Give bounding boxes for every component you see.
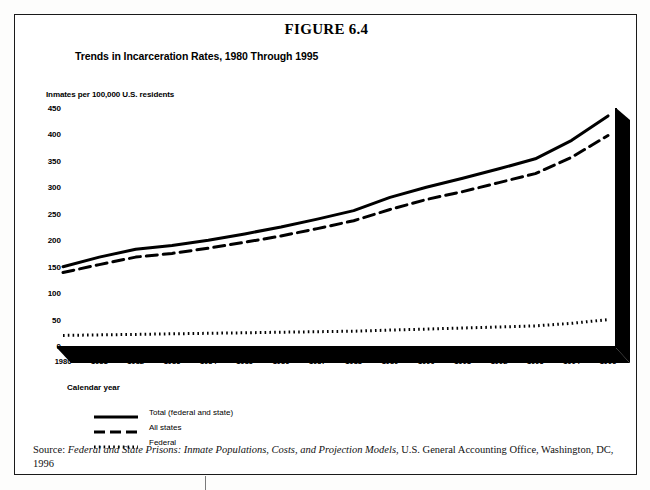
chart-subtitle: Trends in Incarceration Rates, 1980 Thro… <box>75 50 318 62</box>
x-tick-label: 1984 <box>191 357 225 366</box>
y-tick-label: 0 <box>35 342 61 351</box>
legend-label: Total (federal and state) <box>149 408 233 417</box>
x-axis-title: Calendar year <box>67 383 120 392</box>
series-line-dashed <box>63 136 608 273</box>
legend-label: All states <box>149 423 181 432</box>
legend-item: All states <box>93 420 233 435</box>
y-tick-label: 250 <box>35 210 61 219</box>
x-tick-label: 1982 <box>119 357 153 366</box>
scan-artifact-mark <box>205 476 206 490</box>
x-tick-label: 1993 <box>518 357 552 366</box>
series-line-solid <box>63 116 608 267</box>
x-tick-label: 1985 <box>228 357 262 366</box>
source-prefix: Source: <box>33 444 65 455</box>
y-tick-label: 100 <box>35 289 61 298</box>
x-tick-label: 1992 <box>482 357 516 366</box>
x-tick-label: 1994 <box>555 357 589 366</box>
y-tick-label: 200 <box>35 236 61 245</box>
x-tick-label: 1986 <box>264 357 298 366</box>
x-tick-label: 1980 <box>46 357 80 366</box>
x-tick-label: 1990 <box>409 357 443 366</box>
x-tick-label: 1991 <box>446 357 480 366</box>
x-tick-label: 1981 <box>82 357 116 366</box>
line-chart-svg <box>35 85 635 365</box>
legend-key-dashed <box>93 423 139 433</box>
x-tick-label: 1988 <box>337 357 371 366</box>
y-tick-label: 150 <box>35 263 61 272</box>
figure-number-title: FIGURE 6.4 <box>15 21 638 38</box>
y-tick-label: 450 <box>35 104 61 113</box>
legend-item: Total (federal and state) <box>93 405 233 420</box>
y-tick-label: 50 <box>35 316 61 325</box>
plot-area: 050100150200250300350400450 198019811982… <box>35 85 635 365</box>
x-tick-label: 1987 <box>300 357 334 366</box>
scanned-page: FIGURE 6.4 Trends in Incarceration Rates… <box>0 0 650 490</box>
figure-frame: FIGURE 6.4 Trends in Incarceration Rates… <box>14 14 637 475</box>
plot-right-wall <box>616 108 630 363</box>
x-tick-label: 1989 <box>373 357 407 366</box>
y-tick-label: 300 <box>35 183 61 192</box>
source-publication-title: Federal and State Prisons: Inmate Popula… <box>68 444 396 455</box>
series-line-dotted <box>63 320 608 336</box>
legend-key-solid <box>93 408 139 418</box>
y-tick-label: 350 <box>35 157 61 166</box>
source-note: Source: Federal and State Prisons: Inmat… <box>33 443 621 471</box>
y-tick-label: 400 <box>35 130 61 139</box>
x-tick-label: 1983 <box>155 357 189 366</box>
x-tick-label: 1995 <box>591 357 625 366</box>
